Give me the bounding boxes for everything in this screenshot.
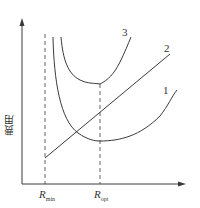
curve-3-label: 3 xyxy=(122,26,128,38)
x-axis-arrow-icon xyxy=(178,182,186,187)
rmin-main: R xyxy=(39,188,46,200)
y-axis-arrow-icon xyxy=(20,18,25,26)
x-tick-rmin: Rmin xyxy=(39,188,55,202)
y-axis-label: 费用 xyxy=(2,112,22,138)
curve-3 xyxy=(61,37,131,84)
curve-1-label: 1 xyxy=(163,84,169,96)
curve-1 xyxy=(53,37,177,141)
curve-2 xyxy=(45,54,170,158)
cost-diagram xyxy=(0,0,200,208)
rmin-sub: min xyxy=(46,196,55,202)
ropt-sub: opt xyxy=(101,196,109,202)
x-tick-ropt: Ropt xyxy=(94,188,108,202)
ropt-main: R xyxy=(94,188,101,200)
curve-2-label: 2 xyxy=(164,42,170,54)
